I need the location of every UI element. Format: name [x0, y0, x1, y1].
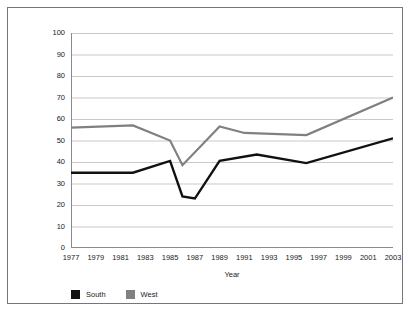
legend-label: West	[141, 290, 158, 299]
legend-label: South	[86, 290, 106, 299]
y-tick-label: 0	[41, 244, 65, 252]
legend-item-south[interactable]: South	[71, 290, 106, 299]
y-tick-label: 60	[41, 115, 65, 123]
x-axis-tick-labels: 1977197919811983198519871989199119931995…	[71, 253, 393, 265]
y-tick-label: 10	[41, 223, 65, 231]
legend-swatch-west	[126, 290, 135, 299]
x-axis-title: Year	[71, 270, 393, 279]
legend-swatch-south	[71, 290, 80, 299]
x-tick-label: 2003	[378, 253, 408, 263]
plot-svg	[71, 33, 393, 248]
y-tick-label: 100	[41, 29, 65, 37]
y-tick-label: 70	[41, 94, 65, 102]
plot-area	[71, 33, 393, 248]
y-tick-label: 30	[41, 180, 65, 188]
y-tick-label: 50	[41, 137, 65, 145]
y-axis-tick-labels: 0102030405060708090100	[39, 33, 65, 248]
legend-item-west[interactable]: West	[126, 290, 158, 299]
y-tick-label: 90	[41, 51, 65, 59]
series-line-west	[71, 98, 393, 166]
y-tick-label: 40	[41, 158, 65, 166]
series-line-south	[71, 138, 393, 198]
chart-frame: Percentage in Agreement 0102030405060708…	[7, 7, 403, 304]
figure-root: Percentage in Agreement 0102030405060708…	[0, 0, 411, 320]
y-tick-label: 20	[41, 201, 65, 209]
y-tick-label: 80	[41, 72, 65, 80]
chart-legend: SouthWest	[71, 288, 178, 300]
